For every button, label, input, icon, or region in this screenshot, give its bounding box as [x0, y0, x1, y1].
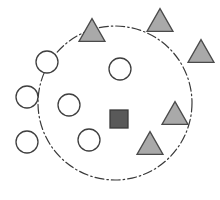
data-markers-layer [16, 9, 214, 155]
triangle-4-marker [162, 102, 188, 125]
triangle-5-marker [137, 132, 163, 155]
circle-3-marker [16, 131, 38, 153]
triangle-1-marker [79, 19, 105, 42]
circle-2-marker [16, 86, 38, 108]
circle-4-marker [58, 94, 80, 116]
triangle-2-marker [147, 9, 173, 32]
diagram-canvas [0, 0, 220, 200]
square-1-marker [110, 110, 128, 128]
circle-5-marker [109, 58, 131, 80]
circle-6-marker [78, 129, 100, 151]
circle-1-marker [36, 51, 58, 73]
triangle-3-marker [188, 40, 214, 63]
cluster-decision-boundary-diagram [0, 0, 220, 200]
